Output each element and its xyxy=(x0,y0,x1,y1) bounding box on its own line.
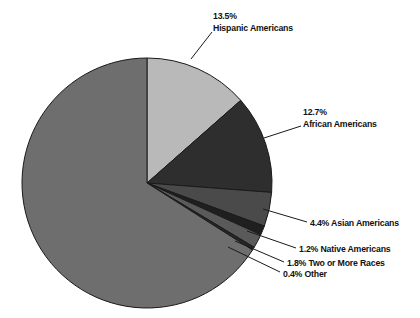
slice-percent-hispanic: 13.5% xyxy=(213,10,293,22)
leader-line-hispanic xyxy=(191,32,212,59)
slice-percent-african: 12.7% xyxy=(303,106,377,118)
leader-line-asian xyxy=(263,209,307,222)
slice-label-asian-americans: 4.4% Asian Americans xyxy=(310,217,399,228)
slice-label-other: 0.4% Other xyxy=(283,268,327,279)
slice-name-african: African Americans xyxy=(303,118,377,130)
pie-slice-group xyxy=(22,58,272,308)
leader-line-african xyxy=(264,126,301,138)
slice-name-hispanic: Hispanic Americans xyxy=(213,22,293,34)
pie-chart-canvas xyxy=(0,0,420,318)
slice-label-two-or-more-races: 1.8% Two or More Races xyxy=(287,257,385,268)
pie-chart: 13.5% Hispanic Americans 12.7% African A… xyxy=(0,0,420,318)
slice-label-native-americans: 1.2% Native Americans xyxy=(299,243,391,254)
slice-label-african-americans: 12.7% African Americans xyxy=(303,106,377,129)
slice-label-hispanic-americans: 13.5% Hispanic Americans xyxy=(213,10,293,33)
